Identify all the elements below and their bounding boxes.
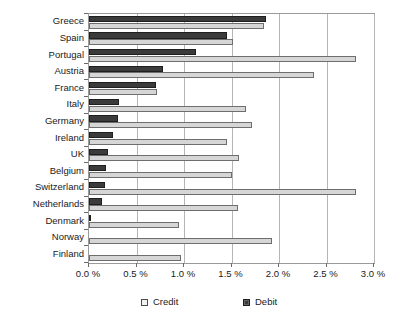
bar-group (89, 97, 374, 114)
bar-group (89, 130, 374, 147)
y-axis-label-austria: Austria (0, 66, 84, 76)
bar-debit-uk (89, 149, 108, 155)
gridline (374, 14, 375, 263)
bar-group (89, 147, 374, 164)
bar-debit-belgium (89, 165, 106, 171)
bar-chart: GreeceSpainPortugalAustriaFranceItalyGer… (0, 0, 404, 326)
y-axis-label-ireland: Ireland (0, 133, 84, 143)
bar-group (89, 31, 374, 48)
x-axis-tick (136, 263, 137, 267)
y-axis-label-netherlands: Netherlands (0, 199, 84, 209)
x-axis-tick (326, 263, 327, 267)
bar-credit-italy (89, 106, 246, 112)
x-axis-tick (88, 263, 89, 267)
bar-debit-ireland (89, 132, 113, 138)
y-axis-label-france: France (0, 83, 84, 93)
bar-debit-austria (89, 66, 163, 72)
bar-credit-netherlands (89, 205, 238, 211)
y-axis-label-uk: UK (0, 149, 84, 159)
credit-swatch-icon (141, 299, 148, 306)
bar-debit-portugal (89, 49, 196, 55)
y-axis-label-norway: Norway (0, 232, 84, 242)
bar-group (89, 180, 374, 197)
debit-swatch-icon (243, 299, 250, 306)
y-axis-label-finland: Finland (0, 249, 84, 259)
bar-credit-belgium (89, 172, 232, 178)
bar-group (89, 163, 374, 180)
x-axis: 0.0 %0.5 %1.0 %1.5 %2.0 %2.5 %3.0 % (0, 263, 404, 283)
bar-debit-italy (89, 99, 119, 105)
bar-group (89, 246, 374, 263)
legend-label-debit: Debit (255, 296, 277, 308)
bar-debit-netherlands (89, 198, 102, 204)
x-axis-label-3: 3.0 % (343, 268, 403, 279)
bar-debit-france (89, 82, 156, 88)
legend-label-credit: Credit (153, 296, 178, 308)
bar-debit-spain (89, 32, 227, 38)
bar-credit-germany (89, 122, 252, 128)
x-axis-tick (183, 263, 184, 267)
bar-debit-denmark (89, 215, 91, 221)
bar-credit-switzerland (89, 189, 356, 195)
legend-item-credit[interactable]: Credit (141, 296, 178, 308)
x-axis-tick (373, 263, 374, 267)
bar-credit-norway (89, 238, 272, 244)
bar-debit-greece (89, 16, 266, 22)
bar-debit-switzerland (89, 182, 105, 188)
bar-group (89, 14, 374, 31)
y-axis-label-spain: Spain (0, 33, 84, 43)
y-axis-label-portugal: Portugal (0, 50, 84, 60)
bar-group (89, 230, 374, 247)
plot-area (88, 13, 375, 264)
y-axis-label-greece: Greece (0, 16, 84, 26)
bar-credit-denmark (89, 222, 179, 228)
bar-credit-austria (89, 72, 314, 78)
bar-group (89, 80, 374, 97)
bar-group (89, 47, 374, 64)
x-axis-tick (231, 263, 232, 267)
x-axis-tick (278, 263, 279, 267)
bar-credit-portugal (89, 56, 356, 62)
bar-group (89, 114, 374, 131)
bar-credit-spain (89, 39, 233, 45)
y-axis-label-belgium: Belgium (0, 166, 84, 176)
y-axis-labels: GreeceSpainPortugalAustriaFranceItalyGer… (0, 13, 84, 262)
legend-item-debit[interactable]: Debit (243, 296, 277, 308)
bar-credit-greece (89, 23, 264, 29)
bar-credit-ireland (89, 139, 227, 145)
bar-debit-germany (89, 115, 118, 121)
y-axis-label-denmark: Denmark (0, 216, 84, 226)
bar-group (89, 64, 374, 81)
chart-legend: CreditDebit (0, 296, 404, 316)
bar-group (89, 213, 374, 230)
bar-credit-finland (89, 255, 181, 261)
y-axis-label-germany: Germany (0, 116, 84, 126)
bar-group (89, 197, 374, 214)
bar-credit-france (89, 89, 157, 95)
bar-credit-uk (89, 155, 239, 161)
y-axis-label-italy: Italy (0, 99, 84, 109)
y-axis-label-switzerland: Switzerland (0, 182, 84, 192)
